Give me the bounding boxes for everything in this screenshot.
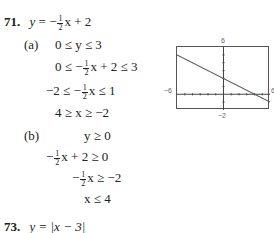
problem-73-header: 73. y = |x − 3| — [4, 220, 85, 233]
part-a-step-1: 0 ≤ y ≤ 3 — [55, 38, 102, 51]
equation-lhs: y — [30, 14, 36, 29]
graph-xmin-label: −6 — [164, 87, 172, 94]
part-b-label: (b) — [24, 129, 39, 142]
equation: y = |x − 3| — [30, 219, 86, 233]
graph-ymin-label: −2 — [218, 112, 226, 119]
problem-number: 71. — [4, 14, 20, 29]
graph-window — [176, 46, 269, 109]
problem-71-header: 71. y = −12x + 2 — [4, 15, 91, 32]
part-b-step-1: y ≥ 0 — [84, 129, 111, 142]
part-b-step-2: −12x + 2 ≥ 0 — [46, 150, 108, 167]
problem-number: 73. — [4, 219, 20, 233]
fraction: 12 — [57, 15, 63, 32]
part-b-step-3: −12x ≥ −2 — [72, 171, 121, 188]
equation-rest: x + 2 — [64, 14, 91, 29]
minus-sign: − — [49, 14, 56, 29]
graph-xmax-label: 6 — [271, 87, 274, 94]
part-a-step-2: 0 ≤ −12x + 2 ≤ 3 — [55, 60, 137, 77]
graph-ymax-label: 6 — [221, 37, 225, 44]
line-plot — [177, 47, 270, 110]
part-b-step-4: x ≤ 4 — [84, 192, 111, 205]
equals-sign: = — [39, 14, 46, 29]
part-a-step-3: −2 ≤ −12x ≤ 1 — [46, 84, 115, 101]
part-a-step-4: 4 ≥ x ≥ −2 — [55, 106, 109, 119]
part-a-label: (a) — [24, 38, 38, 51]
